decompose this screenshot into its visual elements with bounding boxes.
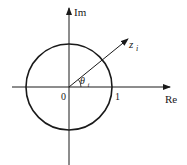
vector-label-sub: i bbox=[136, 44, 138, 53]
unit-tick-label: 1 bbox=[115, 91, 120, 102]
origin-label: 0 bbox=[61, 91, 66, 102]
vector-label: z i bbox=[128, 38, 138, 53]
angle-label-sub: i bbox=[87, 81, 89, 89]
angle-label-main: θ bbox=[80, 75, 85, 86]
vector-z-i bbox=[69, 39, 128, 87]
imaginary-axis-label: Im bbox=[74, 6, 87, 18]
complex-plane-diagram: Im Re 0 1 z i θ i bbox=[0, 0, 187, 165]
vector-label-main: z bbox=[128, 38, 134, 50]
real-axis-label: Re bbox=[165, 93, 177, 105]
